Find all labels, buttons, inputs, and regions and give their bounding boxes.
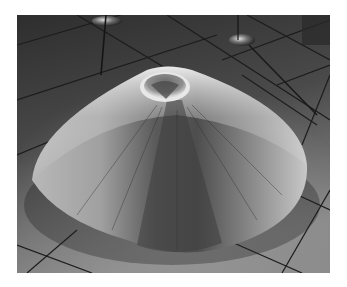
scene: [17, 15, 330, 273]
background-object: [302, 15, 330, 45]
photograph: [17, 15, 330, 273]
